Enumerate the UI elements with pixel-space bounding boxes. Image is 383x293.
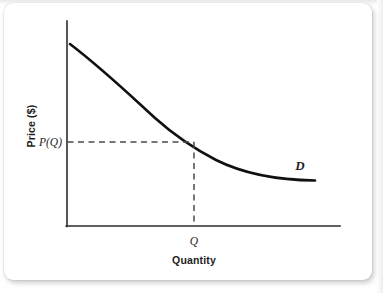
demand-curve-chart: Price ($) P(Q) Q Quantity D	[0, 0, 383, 293]
y-axis-title: Price ($)	[25, 105, 37, 148]
quantity-point-label: Q	[190, 235, 199, 247]
demand-curve-path	[70, 44, 315, 181]
x-axis-title: Quantity	[172, 254, 216, 266]
demand-curve-label: D	[294, 158, 305, 173]
price-point-label: P(Q)	[38, 136, 62, 149]
